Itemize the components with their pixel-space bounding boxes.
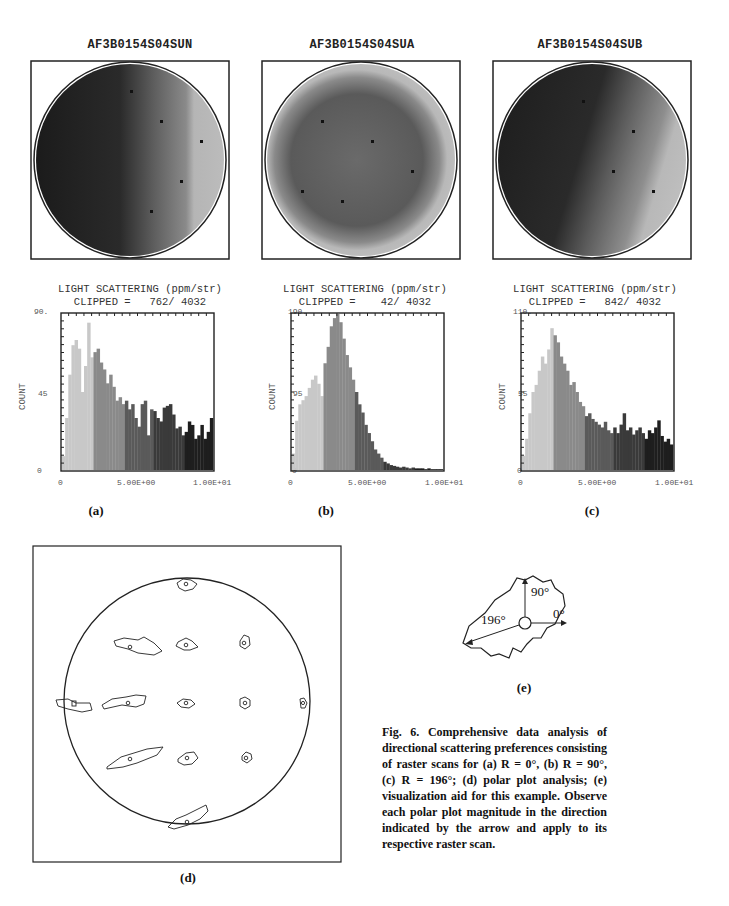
ylabel-b: COUNT: [268, 383, 278, 410]
panel-label-e: (e): [504, 680, 544, 696]
histogram-plot-b: [290, 312, 445, 472]
visualization-aid-diagram: [455, 568, 595, 668]
xtick-a-0: 0: [58, 478, 63, 487]
raster-title-b: AF3B0154S04SUA: [262, 38, 462, 52]
xtick-c-0: 0: [518, 478, 523, 487]
xtick-a-1: 5.00E+00: [117, 478, 155, 487]
ymax-label-a: 90.: [34, 307, 48, 316]
panel-label-c: (c): [572, 503, 612, 519]
histogram-title-c: LIGHT SCATTERING (ppm/str): [495, 283, 695, 296]
xtick-a-2: 1.00E+01: [193, 478, 231, 487]
xtick-b-1: 5.00E+00: [348, 478, 386, 487]
panel-label-a: (a): [76, 503, 116, 519]
histogram-title-b: LIGHT SCATTERING (ppm/str): [265, 283, 465, 296]
xtick-c-1: 5.00E+00: [578, 478, 616, 487]
xtick-c-2: 1.00E+01: [655, 478, 693, 487]
angle-label-0: 0°: [553, 606, 565, 622]
ymin-label-a: 0: [37, 466, 42, 475]
angle-label-90: 90°: [531, 584, 549, 600]
origin-circle-icon: [519, 617, 531, 629]
raster-title-a: AF3B0154S04SUN: [40, 38, 240, 52]
raster-scan-a: [30, 60, 230, 260]
ylabel-a: COUNT: [18, 383, 28, 410]
raster-scan-b: [261, 60, 461, 260]
ymid-label-a: 45: [38, 389, 48, 398]
raster-scan-c: [492, 60, 692, 260]
figure-caption: Fig. 6. Comprehensive data analysis of d…: [382, 724, 607, 852]
polar-plot-analysis: [32, 545, 342, 865]
raster-title-c: AF3B0154S04SUB: [490, 38, 690, 52]
histogram-plot-c: [520, 312, 675, 472]
angle-label-196: 196°: [481, 612, 506, 628]
xtick-b-2: 1.00E+01: [425, 478, 463, 487]
panel-label-b: (b): [306, 503, 346, 519]
xtick-b-0: 0: [288, 478, 293, 487]
histogram-clipped-a: CLIPPED = 762/ 4032: [40, 296, 240, 309]
ylabel-c: COUNT: [498, 383, 508, 410]
histogram-title-a: LIGHT SCATTERING (ppm/str): [40, 283, 240, 296]
histogram-plot-a: [60, 312, 215, 472]
panel-label-d: (d): [168, 870, 208, 886]
polar-glyph-outline: [463, 576, 565, 658]
